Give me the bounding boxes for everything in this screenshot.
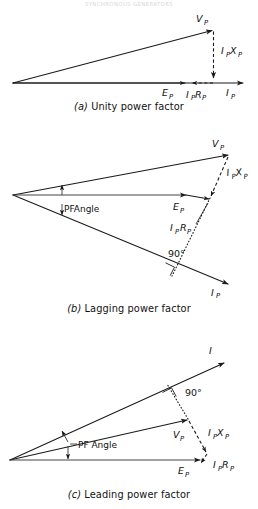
label-ep-a: E P bbox=[162, 87, 174, 100]
svg-text:V: V bbox=[196, 13, 204, 24]
svg-text:P: P bbox=[216, 292, 221, 298]
caption-a-tag: (a) bbox=[74, 101, 88, 112]
svg-text:E: E bbox=[173, 201, 179, 212]
label-ipxp-a: I P X P bbox=[221, 45, 243, 59]
phasor-iprp-b bbox=[186, 195, 209, 199]
svg-text:I: I bbox=[226, 167, 231, 178]
svg-text:E: E bbox=[178, 465, 184, 476]
svg-text:R: R bbox=[222, 459, 229, 470]
caption-b-tag: (b) bbox=[67, 303, 81, 314]
svg-text:P: P bbox=[169, 93, 174, 100]
svg-text:I: I bbox=[208, 427, 211, 438]
label-ep-b: E P bbox=[173, 201, 185, 215]
svg-text:X: X bbox=[234, 166, 243, 178]
label-iprp-b: I P R P bbox=[170, 222, 192, 236]
label-pf-angle-b: PFAngle bbox=[64, 204, 100, 214]
label-90deg-c: 90° bbox=[185, 387, 202, 398]
svg-text:I: I bbox=[213, 459, 216, 470]
svg-text:I: I bbox=[226, 87, 229, 98]
caption-a-text: Unity power factor bbox=[91, 101, 184, 112]
svg-text:P: P bbox=[187, 228, 192, 236]
svg-text:P: P bbox=[238, 51, 243, 59]
svg-text:P: P bbox=[225, 433, 230, 441]
svg-text:V: V bbox=[212, 138, 220, 149]
label-vp-c: V P bbox=[173, 429, 185, 443]
label-i-c: I bbox=[209, 345, 212, 356]
label-ep-c: E P bbox=[178, 465, 190, 479]
svg-text:E: E bbox=[162, 87, 168, 98]
diagram-c-leading-pf: I 90° V P I P X P I P R P E P PF Angle bbox=[0, 338, 258, 488]
label-vp-a: V P bbox=[196, 13, 209, 27]
phasor-iprp-c bbox=[201, 454, 207, 463]
caption-c-text: Leading power factor bbox=[84, 489, 190, 500]
right-angle-marker-c bbox=[163, 388, 177, 397]
caption-c-tag: (c) bbox=[68, 489, 81, 500]
svg-text:R: R bbox=[195, 89, 202, 100]
svg-text:P: P bbox=[204, 19, 209, 27]
caption-a: (a) Unity power factor bbox=[0, 101, 258, 112]
label-ip-b: I P bbox=[211, 287, 221, 298]
running-head: SYNCHRONOUS GENERATORS bbox=[0, 1, 258, 7]
label-iprp-a: I P R P bbox=[186, 89, 207, 100]
label-vp-b: V P bbox=[212, 138, 225, 152]
phasor-ipxp-b bbox=[211, 157, 228, 196]
svg-text:P: P bbox=[220, 144, 225, 152]
svg-text:I: I bbox=[170, 222, 173, 233]
phasor-vp-b bbox=[13, 155, 228, 195]
svg-text:R: R bbox=[180, 222, 187, 233]
svg-text:P: P bbox=[202, 94, 207, 100]
diagram-a-unity-pf: V P I P X P E P I P R P I P bbox=[0, 12, 258, 100]
label-ip-a: I P bbox=[226, 87, 236, 100]
phasor-vp-a bbox=[13, 31, 212, 84]
label-ipxp-c: I P X P bbox=[208, 427, 230, 441]
diagram-b-lagging-pf: V P I P X P E P I P R P PFAngle 90° I P bbox=[0, 132, 258, 298]
svg-text:P: P bbox=[231, 93, 236, 100]
svg-text:I: I bbox=[186, 89, 189, 100]
iprp-leader-b bbox=[196, 203, 208, 224]
svg-text:P: P bbox=[180, 207, 185, 215]
svg-text:X: X bbox=[229, 45, 237, 56]
svg-text:X: X bbox=[216, 427, 224, 438]
caption-c: (c) Leading power factor bbox=[0, 489, 258, 500]
svg-text:I: I bbox=[211, 287, 214, 298]
svg-text:P: P bbox=[180, 435, 185, 443]
caption-b-text: Lagging power factor bbox=[85, 303, 191, 314]
label-ipxp-b: I P X P bbox=[226, 166, 249, 181]
svg-text:P: P bbox=[185, 471, 190, 479]
svg-text:P: P bbox=[243, 172, 249, 181]
label-90deg-b: 90° bbox=[168, 248, 185, 259]
caption-b: (b) Lagging power factor bbox=[0, 303, 258, 314]
svg-text:I: I bbox=[221, 45, 224, 56]
phasor-diagram-figure: SYNCHRONOUS GENERATORS V P I P X bbox=[0, 0, 258, 509]
label-iprp-c: I P R P bbox=[213, 459, 235, 473]
label-pf-angle-c: PF Angle bbox=[78, 440, 118, 450]
svg-text:P: P bbox=[230, 465, 235, 473]
phasor-ip-b bbox=[13, 195, 228, 284]
phasor-ipxp-c bbox=[189, 421, 206, 452]
